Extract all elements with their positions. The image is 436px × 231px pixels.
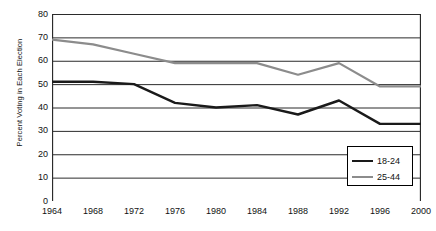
y-axis-tick-label: 80 [26, 10, 48, 19]
y-axis-tick-label: 50 [26, 80, 48, 89]
y-axis-tick-label: 20 [26, 150, 48, 159]
legend-label: 25-44 [377, 173, 400, 182]
y-axis-tick-label: 40 [26, 103, 48, 112]
y-axis-tick-label: 10 [26, 173, 48, 182]
x-axis-tick-label: 1988 [278, 206, 318, 216]
x-axis-tick-label: 1968 [73, 206, 113, 216]
legend-line-swatch [352, 160, 373, 162]
legend-item: 18-24 [352, 153, 412, 169]
y-axis-tick-label: 70 [26, 33, 48, 42]
legend-line-swatch [352, 176, 373, 178]
x-axis-tick-label: 1984 [237, 206, 277, 216]
x-axis-tick-label: 1996 [360, 206, 400, 216]
x-axis-tick-label: 1992 [319, 206, 359, 216]
legend-item: 25-44 [352, 169, 412, 185]
chart-legend: 18-2425-44 [347, 146, 413, 186]
y-axis-tick-label: 60 [26, 56, 48, 65]
x-axis-tick-label: 1980 [196, 206, 236, 216]
x-axis-tick-label: 1972 [114, 206, 154, 216]
x-axis-tick-label: 1964 [32, 206, 72, 216]
y-axis-tick-labels: 01020304050607080 [22, 0, 48, 231]
x-axis-tick-labels: 1964196819721976198019841988199219962000 [0, 206, 436, 220]
y-axis-tick-label: 30 [26, 126, 48, 135]
x-axis-tick-label: 2000 [401, 206, 436, 216]
chart-container: Percent Voting in Each Election 01020304… [0, 0, 436, 231]
series-line-25-44 [52, 40, 421, 87]
x-axis-tick-label: 1976 [155, 206, 195, 216]
legend-label: 18-24 [377, 157, 400, 166]
series-line-18-24 [52, 82, 421, 124]
y-axis-tick-label: 0 [26, 197, 48, 206]
